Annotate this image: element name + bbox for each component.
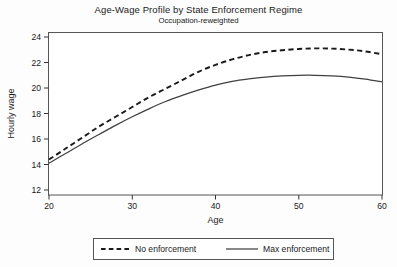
plot-frame	[49, 33, 383, 196]
y-tick-label: 16	[31, 134, 41, 144]
x-tick-label: 60	[377, 201, 387, 211]
x-axis-ticks	[49, 195, 382, 200]
x-tick-label: 40	[211, 201, 221, 211]
x-tick-label: 50	[294, 201, 304, 211]
legend-label-no-enforcement: No enforcement	[135, 244, 197, 254]
y-tick-label: 20	[31, 83, 41, 93]
chart-canvas: 12 14 16 18 20 22 24 Hourly wage 20 30 4…	[0, 0, 397, 267]
legend-label-max-enforcement: Max enforcement	[263, 244, 330, 254]
y-tick-label: 18	[31, 109, 41, 119]
x-tick-label: 20	[44, 201, 54, 211]
y-tick-label: 24	[31, 32, 41, 42]
y-tick-labels: 12 14 16 18 20 22 24	[31, 32, 41, 195]
x-tick-label: 30	[128, 201, 138, 211]
y-tick-label: 14	[31, 160, 41, 170]
chart-figure: Age-Wage Profile by State Enforcement Re…	[0, 0, 397, 267]
y-tick-label: 12	[31, 185, 41, 195]
x-tick-labels: 20 30 40 50 60	[44, 201, 387, 211]
y-tick-label: 22	[31, 58, 41, 68]
y-axis-ticks	[44, 37, 49, 190]
y-axis-title: Hourly wage	[6, 88, 16, 138]
x-axis-title: Age	[207, 215, 223, 225]
